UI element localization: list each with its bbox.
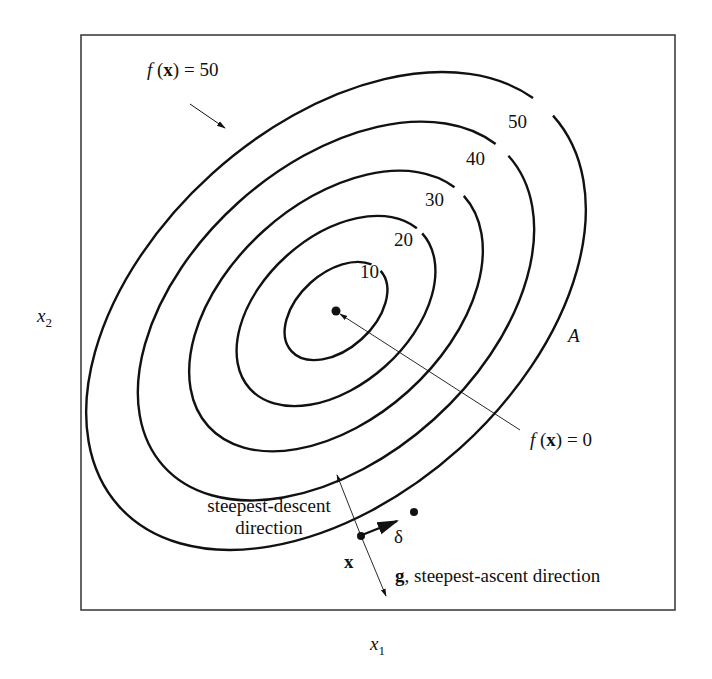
contour-diagram [0,0,712,679]
point-x-plus-delta [410,508,418,516]
minimum-annotation: f (x) = 0 [530,430,592,449]
x-axis-label: x1 [370,634,385,653]
contour-label-30: 30 [425,190,444,209]
gradient-label: g, steepest-ascent direction [395,566,600,585]
contour-label-10: 10 [360,262,379,281]
gradient-arrow [361,536,386,596]
contour-label-20: 20 [394,230,413,249]
y-axis-label: x2 [37,306,52,325]
contour-label-50: 50 [508,112,527,131]
minimum-point [332,307,341,316]
contour-label-40: 40 [466,149,485,168]
steepest-descent-label: steepest-descent direction [196,495,342,539]
contour-50 [0,0,677,644]
region-label-a: A [568,326,580,345]
outer-contour-annotation: f (x) = 50 [147,60,218,79]
outer-contour-pointer [190,104,225,128]
step-delta-arrow [362,521,397,535]
minimum-pointer [340,314,520,430]
point-x-label: x [344,552,354,571]
step-delta-label: δ [394,527,403,546]
plot-frame [81,35,675,610]
